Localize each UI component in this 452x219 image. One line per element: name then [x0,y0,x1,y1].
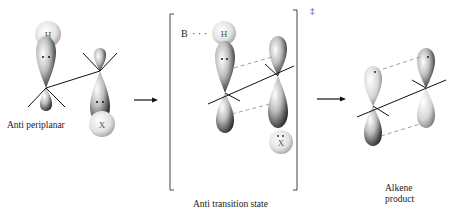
product-label-line1: Alkene [385,183,412,194]
alkene-product-structure [357,48,446,146]
product-label-line2: product [385,194,414,205]
ts-atom-h-label: H [221,29,228,39]
double-dagger-symbol: ‡ [310,6,315,16]
base-dots: · · · [192,28,207,39]
transition-state-label: Anti transition state [193,199,268,210]
reactant-label: Anti periplanar [7,120,65,131]
ts-leaving-group-atom: X [269,130,293,154]
base-label: B [181,28,188,39]
atom-x-label: X [99,120,106,130]
ts-atom-x-label: X [278,138,285,148]
transition-state-structure: B · · · H X [170,10,297,190]
reaction-arrow-2 [317,97,346,102]
left-bracket [170,14,174,190]
reaction-arrow-1 [134,98,158,103]
right-bracket [293,10,297,190]
elimination-diagram: H X B · · · H [0,0,452,219]
leaving-group-atom: X [89,111,115,137]
